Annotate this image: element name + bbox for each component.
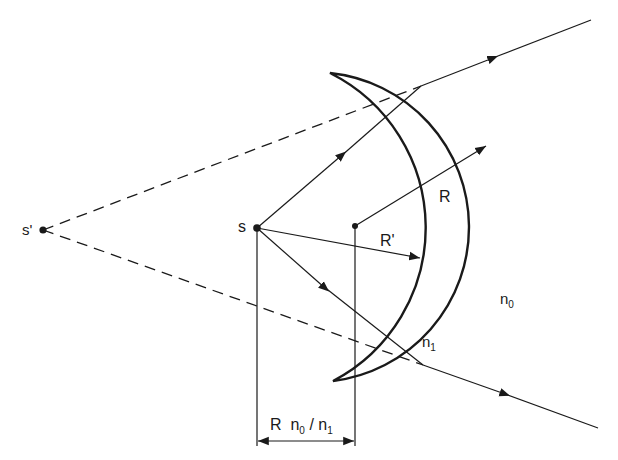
point-s-prime [39,226,46,233]
dimension-n1-base: n [318,416,327,433]
label-n1: n1 [422,334,436,353]
ray-upper-out [421,58,493,86]
dimension-n1-sub: 1 [327,425,333,436]
meniscus-lens [330,73,469,381]
dimension-slash: / [309,416,313,433]
radius-R-prime [257,228,420,258]
ray-upper-inside-cont [340,86,421,157]
label-n0-sub: 0 [508,299,514,310]
meniscus-lens-diagram [0,0,618,460]
virtual-ray-lower [43,230,423,365]
ray-lower-inside [257,228,325,288]
radius-R [355,146,486,226]
ray-lower-out [423,365,505,394]
dimension-R: R [270,416,282,433]
ray-upper-inside [257,155,342,228]
ray-upper-out-cont [490,20,591,59]
label-R: R [439,189,451,205]
label-n0: n0 [500,291,514,310]
virtual-ray-upper [43,86,421,230]
ray-lower-out-cont [502,393,598,428]
label-s-prime: s' [22,222,32,237]
dimension-n0-sub: 0 [299,425,305,436]
point-s [253,224,261,232]
dimension-label: R n0 / n1 [270,417,333,436]
label-s: s [238,219,246,235]
label-R-prime: R' [380,233,395,249]
label-n1-sub: 1 [430,342,436,353]
point-outer-center [352,223,358,229]
